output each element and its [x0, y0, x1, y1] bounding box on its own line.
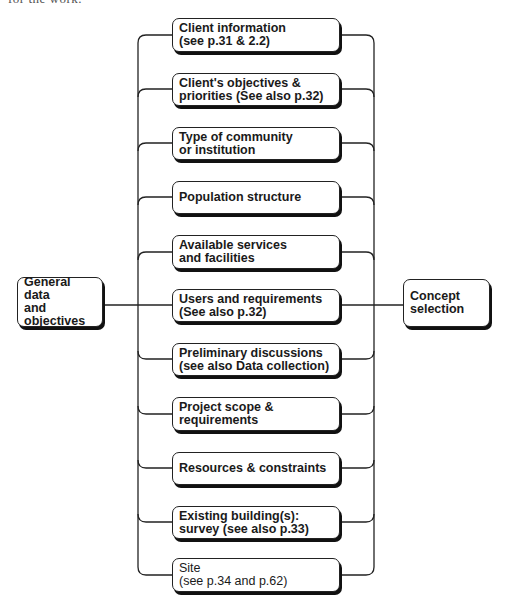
item-box-project-scope: Project scope & requirements — [172, 397, 340, 431]
item-box-users-requirements: Users and requirements (See also p.32) — [172, 289, 340, 322]
item-box-client-objectives: Client's objectives & priorities (See al… — [172, 73, 340, 106]
item-label: Site (see p.34 and p.62) — [179, 562, 287, 588]
item-label: Client's objectives & priorities (See al… — [179, 77, 324, 103]
target-label: Concept selection — [410, 290, 464, 316]
item-box-site: Site (see p.34 and p.62) — [172, 558, 340, 592]
target-box-concept-selection: Concept selection — [403, 279, 490, 327]
item-box-resources-constraints: Resources & constraints — [172, 452, 340, 485]
item-box-client-information: Client information (see p.31 & 2.2) — [172, 18, 340, 52]
item-box-existing-buildings: Existing building(s): survey (see also p… — [172, 506, 340, 539]
item-box-preliminary-discussions: Preliminary discussions (see also Data c… — [172, 343, 340, 376]
item-label: Preliminary discussions (see also Data c… — [179, 347, 329, 373]
item-label: Population structure — [179, 191, 301, 204]
item-label: Resources & constraints — [179, 462, 326, 475]
item-label: Project scope & requirements — [179, 401, 273, 427]
item-box-available-services: Available services and facilities — [172, 235, 340, 269]
item-label: Available services and facilities — [179, 239, 287, 265]
item-label: Existing building(s): survey (see also p… — [179, 510, 309, 536]
source-label: General data and objectives — [24, 276, 96, 328]
item-label: Type of community or institution — [179, 131, 293, 157]
source-box-general-data: General data and objectives — [17, 277, 103, 327]
item-box-population-structure: Population structure — [172, 181, 340, 214]
item-box-type-of-community: Type of community or institution — [172, 127, 340, 160]
item-label: Users and requirements (See also p.32) — [179, 293, 322, 319]
item-label: Client information (see p.31 & 2.2) — [179, 22, 286, 48]
